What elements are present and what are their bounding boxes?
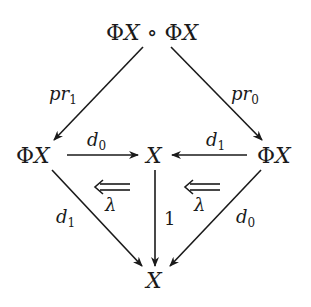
label-identity: 1	[164, 210, 175, 228]
node-right: ΦX	[257, 145, 291, 167]
node-left: ΦX	[16, 145, 50, 167]
label-pr1: pr1	[49, 85, 77, 106]
label-d1-top: d1	[206, 131, 225, 152]
commutative-diagram: ΦX ∘ ΦX ΦX X ΦX X pr1 pr0 d0 d1 d1 d0 1 …	[0, 0, 311, 307]
node-top: ΦX ∘ ΦX	[106, 22, 198, 44]
label-lambda-left: λ	[105, 196, 116, 214]
two-cell-arrow-left	[95, 180, 130, 194]
label-lambda-right: λ	[194, 196, 205, 214]
label-d0-top: d0	[87, 131, 106, 152]
node-center: X	[146, 145, 162, 167]
two-cell-arrow-right	[185, 180, 220, 194]
label-d0-bottom: d0	[236, 208, 255, 229]
label-pr0: pr0	[231, 85, 259, 106]
node-bottom: X	[146, 270, 162, 292]
label-d1-bottom: d1	[56, 208, 75, 229]
